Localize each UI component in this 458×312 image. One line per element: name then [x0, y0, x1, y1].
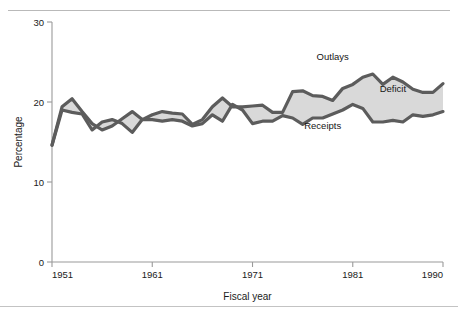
y-tick-label-30: 30	[33, 17, 44, 28]
y-tick-label-20: 20	[33, 97, 44, 108]
x-tick-label-1990: 1990	[422, 269, 443, 280]
figure-container: 010203019511961197119811990PercentageFis…	[0, 0, 458, 312]
x-tick-label-1951: 1951	[52, 269, 73, 280]
y-axis-title: Percentage	[13, 116, 24, 168]
x-axis-title: Fiscal year	[223, 291, 272, 302]
bottom-divider	[0, 306, 458, 307]
annotation-outlays: Outlays	[317, 51, 349, 62]
annotation-receipts: Receipts	[304, 120, 341, 131]
annotation-deficit: Deficit	[380, 83, 407, 94]
chart-svg: 010203019511961197119811990PercentageFis…	[0, 0, 458, 312]
y-tick-label-0: 0	[39, 257, 44, 268]
x-tick-label-1961: 1961	[142, 269, 163, 280]
y-tick-label-10: 10	[33, 177, 44, 188]
x-tick-label-1971: 1971	[242, 269, 263, 280]
x-tick-label-1981: 1981	[342, 269, 363, 280]
